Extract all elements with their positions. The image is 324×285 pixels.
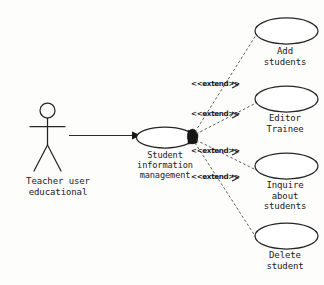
use-case-label-delete-student: Deletestudent — [248, 250, 322, 271]
use-case-ellipse-inquire-about-students[interactable] — [255, 153, 318, 179]
stick-figure-actor-icon — [30, 103, 65, 171]
stereotype-label-extend-editor-trainee: <<extend>> — [191, 110, 240, 118]
use-case-label-line-2: student — [266, 261, 303, 271]
stereotype-label-extend-delete-student: <<extend>> — [191, 173, 240, 181]
use-case-label-line-2: students — [264, 57, 307, 67]
use-case-label-inquire-about-students: Inquireaboutstudents — [248, 180, 322, 212]
figure-caption — [0, 272, 324, 279]
use-case-ellipse-student-information-management[interactable] — [137, 127, 194, 148]
central-use-case-line-2: information — [137, 160, 193, 170]
extend-junction-point — [187, 129, 198, 144]
association-line — [69, 132, 141, 140]
extend-arrow-marks — [232, 82, 238, 181]
central-use-case-line-3: management — [140, 170, 191, 180]
use-case-ellipse-delete-student[interactable] — [255, 223, 318, 249]
stereotype-label-extend-inquire-about-students: <<extend>> — [191, 147, 240, 155]
use-case-diagram: Teacher usereducational Studentinformati… — [0, 0, 324, 285]
use-case-label-line-1: Inquire — [266, 180, 303, 190]
use-case-label-line-1: Add — [277, 46, 293, 56]
extend-connector-inquire-about-students — [196, 140, 256, 170]
actor-label-line-2: educational — [29, 187, 88, 197]
use-case-label-line-2: about — [272, 191, 299, 201]
use-case-label-line-3: students — [264, 201, 307, 211]
diagram-canvas — [0, 0, 324, 285]
use-case-label-line-2: Trainee — [266, 124, 303, 134]
central-use-case-line-1: Student — [147, 150, 183, 160]
use-case-label-line-1: Editor — [269, 113, 301, 123]
use-case-ellipse-editor-trainee[interactable] — [255, 86, 318, 112]
stereotype-label-extend-add-students: <<extend>> — [191, 80, 240, 88]
use-case-ellipse-add-students[interactable] — [255, 18, 318, 44]
actor-label-line-1: Teacher user — [26, 176, 90, 186]
use-case-label-editor-trainee: EditorTrainee — [248, 113, 322, 134]
use-case-label-line-1: Delete — [269, 250, 301, 260]
use-case-label-add-students: Addstudents — [248, 46, 322, 67]
actor-label: Teacher usereducational — [6, 176, 110, 198]
extend-connector-editor-trainee — [196, 103, 256, 134]
